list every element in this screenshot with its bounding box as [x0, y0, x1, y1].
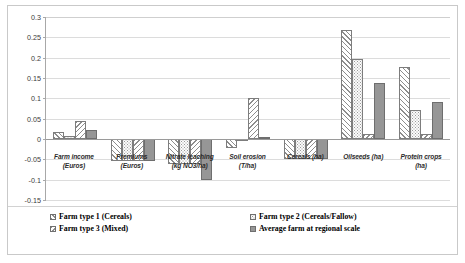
bar [201, 139, 212, 180]
legend-swatch-icon [50, 214, 56, 220]
bar-slot [75, 17, 86, 200]
bar [432, 102, 443, 139]
gridline [46, 200, 450, 201]
bar-slot [122, 17, 133, 200]
bar [306, 139, 317, 159]
legend-item[interactable]: Farm type 2 (Cereals/Fallow) [250, 212, 440, 221]
legend-item[interactable]: Farm type 3 (Mixed) [50, 224, 240, 233]
y-axis-tick-label: 0.05 [27, 114, 41, 123]
legend-swatch-icon [250, 214, 256, 220]
plot-canvas: 0.30.250.20.150.10.050-0.05-0.1-0.15 [45, 17, 450, 200]
bar-slot [374, 17, 385, 200]
legend-swatch-icon [50, 226, 56, 232]
legend-item[interactable]: Average farm at regional scale [250, 224, 440, 233]
bar-slot [352, 17, 363, 200]
bar-group-bars [104, 17, 162, 200]
bar-group-bars [219, 17, 277, 200]
y-axis-tick-label: 0.25 [27, 33, 41, 42]
bar-group [161, 17, 219, 200]
legend-item-label: Farm type 1 (Cereals) [59, 212, 132, 221]
bar [248, 98, 259, 139]
bar-groups [46, 17, 450, 200]
bar-group [335, 17, 393, 200]
bar-group [277, 17, 335, 200]
y-axis-tick-label: -0.05 [25, 155, 41, 164]
y-axis-tick-label: 0.1 [31, 94, 41, 103]
bar-slot [410, 17, 421, 200]
legend-item-label: Farm type 2 (Cereals/Fallow) [259, 212, 357, 221]
bar-slot [421, 17, 432, 200]
bar [410, 110, 421, 139]
bar [284, 139, 295, 159]
bar [86, 130, 97, 139]
chart-legend: Farm type 1 (Cereals)Farm type 2 (Cereal… [50, 212, 440, 246]
bar [399, 67, 410, 139]
bar-slot [144, 17, 155, 200]
bar-group [219, 17, 277, 200]
bar-group-bars [46, 17, 104, 200]
bar-slot [284, 17, 295, 200]
bar-group-bars [392, 17, 450, 200]
y-axis-tick-label: -0.15 [25, 196, 41, 205]
legend-item-label: Average farm at regional scale [259, 224, 360, 233]
bar [317, 139, 328, 159]
y-axis-tick-label: -0.1 [29, 175, 41, 184]
bar-group [46, 17, 104, 200]
legend-item-label: Farm type 3 (Mixed) [59, 224, 128, 233]
chart-figure: 0.30.250.20.150.10.050-0.05-0.1-0.15 Far… [0, 0, 465, 263]
bar [341, 30, 352, 139]
bar-slot [179, 17, 190, 200]
bar-slot [201, 17, 212, 200]
bar-slot [317, 17, 328, 200]
bar-slot [226, 17, 237, 200]
bar-group [104, 17, 162, 200]
bar-slot [133, 17, 144, 200]
bar [352, 59, 363, 139]
y-axis-tick-label: 0.2 [31, 53, 41, 62]
bar [122, 139, 133, 161]
legend-item[interactable]: Farm type 1 (Cereals) [50, 212, 240, 221]
bar-group-bars [335, 17, 393, 200]
bar [111, 139, 122, 161]
bar-slot [64, 17, 75, 200]
bar-slot [399, 17, 410, 200]
y-axis-tick-mark [43, 200, 46, 201]
y-axis-tick-label: 0.15 [27, 74, 41, 83]
zero-baseline [46, 139, 450, 140]
bar [133, 139, 144, 161]
bar [374, 83, 385, 139]
legend-swatch-icon [250, 226, 256, 232]
bar [75, 121, 86, 139]
bar-slot [341, 17, 352, 200]
bar [53, 132, 64, 139]
bar-slot [432, 17, 443, 200]
bar-slot [190, 17, 201, 200]
bar [190, 139, 201, 164]
bar [226, 139, 237, 148]
bar-slot [248, 17, 259, 200]
bar-slot [306, 17, 317, 200]
bar [179, 139, 190, 164]
bar-slot [363, 17, 374, 200]
legend-divider [8, 206, 457, 207]
bar [144, 139, 155, 161]
bar-slot [295, 17, 306, 200]
bar [295, 139, 306, 159]
bar-group [392, 17, 450, 200]
bar-slot [86, 17, 97, 200]
bar-slot [237, 17, 248, 200]
y-axis-tick-label: 0.3 [31, 13, 41, 22]
bar-group-bars [277, 17, 335, 200]
bar-slot [259, 17, 270, 200]
bar-slot [53, 17, 64, 200]
y-axis-tick-label: 0 [37, 135, 41, 144]
bar [168, 139, 179, 164]
bar-slot [111, 17, 122, 200]
plot-area: 0.30.250.20.150.10.050-0.05-0.1-0.15 [45, 17, 450, 200]
bar-slot [168, 17, 179, 200]
bar-group-bars [161, 17, 219, 200]
